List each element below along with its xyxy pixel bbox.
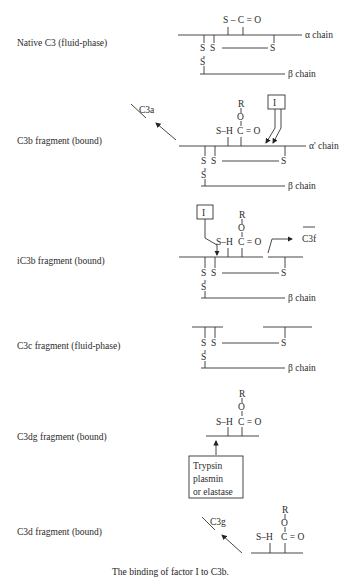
enzyme-box-line2: plasmin [193, 474, 223, 484]
factor-i-box-label: I [273, 98, 276, 108]
svg-text:S: S [201, 338, 206, 348]
svg-text:R: R [238, 99, 245, 109]
factor-i-box-label: I [202, 208, 205, 218]
svg-text:S: S [281, 338, 286, 348]
svg-text:S–H: S–H [216, 417, 233, 427]
c3c-structure [192, 327, 312, 368]
svg-text:O: O [237, 112, 244, 122]
svg-text:O: O [238, 223, 245, 233]
svg-text:S–H: S–H [256, 532, 273, 542]
svg-text:S: S [201, 282, 206, 292]
ic3b-structure [179, 205, 315, 298]
svg-text:S–H: S–H [216, 126, 233, 136]
svg-text:S: S [200, 57, 205, 67]
svg-text:β chain: β chain [288, 181, 316, 191]
c3a-label: C3a [139, 105, 155, 115]
svg-text:R: R [239, 210, 246, 220]
svg-text:S: S [201, 156, 206, 166]
c3b-structure [131, 95, 306, 186]
svg-text:C = O: C = O [238, 417, 261, 427]
svg-text:S: S [201, 352, 206, 362]
c3-cleavage-diagram: S – C = O α chain S S S S β chain R O S–… [0, 0, 341, 581]
svg-text:O: O [238, 402, 245, 412]
svg-text:β chain: β chain [288, 363, 316, 373]
svg-text:S: S [281, 156, 286, 166]
svg-text:R: R [282, 505, 289, 515]
enzyme-box-line1: Trypsin [193, 461, 222, 471]
svg-text:R: R [239, 389, 246, 399]
alpha-prime-chain-label: α' chain [309, 141, 339, 151]
svg-text:S: S [201, 170, 206, 180]
svg-text:S: S [200, 43, 205, 53]
alpha-chain-label: α chain [305, 30, 333, 40]
svg-text:C = O: C = O [281, 532, 304, 542]
svg-text:S: S [270, 43, 275, 53]
beta-chain-label: β chain [288, 69, 316, 79]
svg-text:S: S [201, 268, 206, 278]
svg-text:S: S [211, 268, 216, 278]
svg-text:S: S [210, 43, 215, 53]
svg-text:S: S [211, 156, 216, 166]
svg-text:β chain: β chain [288, 293, 316, 303]
figure-caption: The binding of factor I to C3b. [0, 567, 341, 577]
svg-text:C = O: C = O [237, 126, 260, 136]
svg-text:O: O [281, 518, 288, 528]
enzyme-box-line3: or elastase [193, 487, 233, 497]
svg-text:S–H: S–H [216, 237, 233, 247]
thioester-bond-text: S – C = O [223, 15, 261, 25]
svg-text:S: S [211, 338, 216, 348]
svg-text:S: S [281, 268, 286, 278]
svg-text:C = O: C = O [238, 237, 261, 247]
native-c3-structure [178, 27, 302, 74]
c3g-label: C3g [210, 517, 226, 527]
c3f-label: C3f [302, 234, 317, 244]
